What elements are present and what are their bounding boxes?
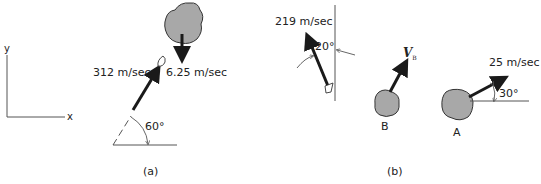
projectile-a-speed-label: 312 m/sec: [93, 67, 150, 78]
projectile-b-speed-label: 219 m/sec: [275, 16, 332, 27]
projectile-b-angle-label: 20°: [315, 41, 335, 52]
x-axis-label: x: [67, 112, 73, 122]
rock-b-shape: [375, 66, 404, 117]
y-axis-label: y: [4, 44, 10, 54]
rock-a-speed-label: 6.25 m/sec: [166, 67, 227, 78]
panel-b-caption: (b): [387, 166, 403, 177]
physics-diagram: y x 312 m/sec 6.25 m/sec 60° (a) 219 m/s…: [0, 0, 541, 184]
panel-a-caption: (a): [143, 166, 158, 177]
rock-a-label: A: [453, 127, 461, 138]
projectile-a-arrow: [133, 56, 165, 110]
xy-axes: [7, 55, 65, 117]
launch-angle-label: 60°: [145, 121, 165, 132]
diagram-graphics: [0, 0, 541, 184]
velocity-b-symbol: VB: [403, 47, 417, 61]
rock-a-speed-label-b: 25 m/sec: [489, 57, 539, 68]
rock-a-angle-label: 30°: [499, 88, 519, 99]
rock-b-label: B: [381, 121, 389, 132]
rock-a-shape: [165, 3, 203, 55]
